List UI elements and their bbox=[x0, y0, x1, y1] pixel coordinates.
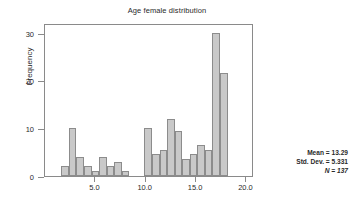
histogram-bar bbox=[220, 73, 228, 176]
histogram-bar bbox=[212, 33, 220, 176]
histogram-bar bbox=[84, 166, 92, 176]
histogram-bar bbox=[197, 145, 205, 176]
stat-mean: Mean = 13.29 bbox=[262, 148, 348, 157]
plot-frame bbox=[44, 24, 253, 177]
histogram-bar bbox=[76, 157, 84, 176]
histogram-bar bbox=[160, 150, 168, 176]
histogram-bar bbox=[61, 166, 69, 176]
x-axis-tick bbox=[245, 177, 246, 182]
x-axis-tick-label: 15.0 bbox=[177, 183, 213, 192]
x-axis-tick-label: 20.0 bbox=[227, 183, 263, 192]
plot-area bbox=[45, 25, 252, 176]
statistics-annotation: Mean = 13.29 Std. Dev. = 5.331 N = 137 bbox=[262, 148, 348, 175]
histogram-bar bbox=[107, 166, 115, 176]
x-axis-tick-label: 5.0 bbox=[76, 183, 112, 192]
histogram-bar bbox=[205, 150, 213, 176]
stat-std-dev: Std. Dev. = 5.331 bbox=[262, 157, 348, 166]
histogram-bar bbox=[190, 154, 198, 176]
histogram-bar bbox=[122, 171, 130, 176]
histogram-bar bbox=[99, 157, 107, 176]
x-axis-tick bbox=[94, 177, 95, 182]
x-axis-tick-label: 10.0 bbox=[127, 183, 163, 192]
chart-title: Age female distribution bbox=[72, 6, 262, 15]
histogram-bar bbox=[92, 171, 100, 176]
x-axis-tick bbox=[195, 177, 196, 182]
histogram-figure: Age female distribution Frequency 010203… bbox=[0, 0, 352, 210]
histogram-bar bbox=[175, 131, 183, 176]
y-axis-tick-label: 20 bbox=[6, 77, 34, 86]
x-axis-tick bbox=[145, 177, 146, 182]
histogram-bar bbox=[182, 159, 190, 176]
y-axis-tick-label: 0 bbox=[6, 173, 34, 182]
stat-n: N = 137 bbox=[262, 166, 348, 175]
histogram-bar bbox=[167, 119, 175, 176]
y-axis-tick bbox=[38, 177, 44, 178]
y-axis-tick-label: 30 bbox=[6, 30, 34, 39]
histogram-bar bbox=[69, 128, 77, 176]
histogram-bar bbox=[144, 128, 152, 176]
histogram-bar bbox=[114, 162, 122, 176]
y-axis-tick-label: 10 bbox=[6, 125, 34, 134]
histogram-bar bbox=[152, 154, 160, 176]
